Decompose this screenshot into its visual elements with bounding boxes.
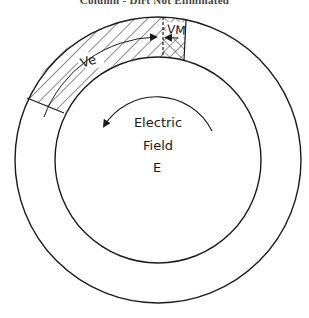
vm-label: VM: [167, 22, 186, 37]
ring-diagram: Ve VM Electric Field E: [0, 0, 309, 318]
vm-arrow: [166, 38, 178, 39]
field-label-line2: Field: [143, 138, 173, 153]
field-label-line3: E: [153, 160, 161, 175]
field-label-line1: Electric: [134, 115, 182, 130]
